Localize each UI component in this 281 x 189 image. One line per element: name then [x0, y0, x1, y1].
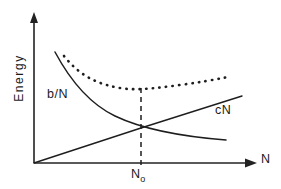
energy-vs-n-figure: Energy b/N cN N No	[0, 0, 281, 189]
equilibrium-label: No	[131, 168, 145, 184]
plot-canvas	[0, 0, 281, 189]
y-axis-label: Energy	[13, 38, 25, 118]
x-axis-arrow-icon	[245, 159, 257, 168]
curve-total-dotted	[64, 56, 228, 89]
equilibrium-label-base: N	[131, 167, 140, 181]
y-axis-arrow-icon	[30, 12, 38, 23]
curve-cn	[34, 96, 242, 163]
curve-label-bn: b/N	[47, 88, 68, 101]
equilibrium-label-subscript: o	[140, 174, 145, 184]
curve-label-cn: cN	[215, 104, 231, 117]
x-axis-label: N	[261, 153, 270, 166]
